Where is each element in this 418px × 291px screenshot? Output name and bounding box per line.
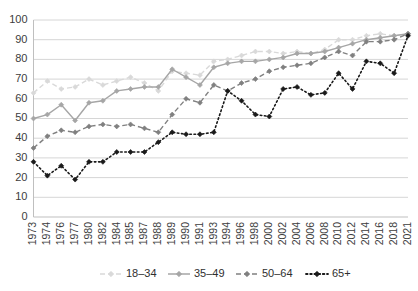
x-tick-label: 1993 <box>207 222 219 246</box>
data-point <box>392 37 397 42</box>
data-point <box>86 124 91 129</box>
data-point <box>184 96 189 101</box>
x-tick-label: 2006 <box>304 222 316 246</box>
chart-svg: 0102030405060708090100 19731974197619771… <box>0 0 418 291</box>
legend-marker-icon <box>108 271 114 277</box>
x-tick-label: 1982 <box>96 222 108 246</box>
legend-label: 18–34 <box>126 267 157 279</box>
y-tick-label: 20 <box>15 171 27 183</box>
data-point <box>142 126 147 131</box>
legend-item-65+[interactable]: 65+ <box>306 267 351 279</box>
data-point <box>114 124 119 129</box>
x-tick-label: 1994 <box>220 222 232 246</box>
x-tick-label: 2002 <box>276 222 288 246</box>
data-point <box>336 49 341 54</box>
data-point <box>128 149 133 154</box>
x-tick-label: 1988 <box>151 222 163 246</box>
y-tick-label: 0 <box>21 210 27 222</box>
x-tick-label: 2004 <box>290 222 302 246</box>
data-point <box>281 65 286 70</box>
x-tick-label: 1985 <box>123 222 135 246</box>
x-tick-label: 1996 <box>234 222 246 246</box>
x-tick-label: 1977 <box>68 222 80 246</box>
y-tick-label: 80 <box>15 52 27 64</box>
data-point <box>59 128 64 133</box>
y-tick-label: 60 <box>15 92 27 104</box>
data-point <box>197 132 202 137</box>
data-point <box>142 84 147 89</box>
data-point <box>86 77 91 82</box>
x-tick-label: 1991 <box>193 222 205 246</box>
legend-item-18-34[interactable]: 18–34 <box>100 267 157 279</box>
x-tick-label: 2010 <box>331 222 343 246</box>
x-tick-label: 2012 <box>345 222 357 246</box>
x-tick-label: 2021 <box>401 222 413 246</box>
x-tick-label: 1980 <box>82 222 94 246</box>
data-point <box>225 61 230 66</box>
data-point <box>100 83 105 88</box>
y-tick-label: 50 <box>15 111 27 123</box>
y-tick-label: 90 <box>15 33 27 45</box>
y-tick-label: 10 <box>15 190 27 202</box>
x-tick-label: 1989 <box>165 222 177 246</box>
x-tick-label: 2008 <box>318 222 330 246</box>
x-tick-label: 2016 <box>373 222 385 246</box>
data-point <box>128 86 133 91</box>
x-tick-label: 2000 <box>262 222 274 246</box>
x-axis-tick-labels: 1973197419761977198019821984198519871988… <box>26 222 413 246</box>
data-point <box>350 41 355 46</box>
data-point <box>31 159 36 164</box>
data-point <box>31 116 36 121</box>
data-point <box>253 77 258 82</box>
data-point <box>239 53 244 58</box>
series-35-49 <box>31 31 411 123</box>
data-point <box>100 122 105 127</box>
data-point <box>100 159 105 164</box>
y-axis-tick-labels: 0102030405060708090100 <box>9 13 27 222</box>
chart-legend: 18–3435–4950–6465+ <box>100 267 351 279</box>
x-tick-label: 1984 <box>110 222 122 246</box>
legend-marker-icon <box>314 271 320 277</box>
data-point <box>322 90 327 95</box>
data-point <box>225 88 230 93</box>
x-tick-label: 1998 <box>248 222 260 246</box>
data-point <box>59 86 64 91</box>
x-tick-label: 1974 <box>40 222 52 246</box>
y-tick-label: 100 <box>9 13 27 25</box>
data-point <box>73 130 78 135</box>
x-tick-label: 2018 <box>387 222 399 246</box>
data-point <box>267 49 272 54</box>
data-point <box>184 132 189 137</box>
legend-item-50-64[interactable]: 50–64 <box>236 267 293 279</box>
data-point <box>156 130 161 135</box>
legend-label: 50–64 <box>262 267 293 279</box>
x-tick-label: 1987 <box>137 222 149 246</box>
data-point <box>267 57 272 62</box>
legend-item-35-49[interactable]: 35–49 <box>168 267 225 279</box>
legend-marker-icon <box>176 271 182 277</box>
x-tick-label: 1990 <box>179 222 191 246</box>
series-50-64 <box>31 31 411 150</box>
x-tick-label: 1973 <box>26 222 38 246</box>
line-chart: 0102030405060708090100 19731974197619771… <box>0 0 418 291</box>
data-point <box>295 63 300 68</box>
data-point <box>128 122 133 127</box>
x-tick-label: 1976 <box>54 222 66 246</box>
gridlines <box>34 20 409 217</box>
data-series-layer <box>31 31 411 182</box>
x-tick-label: 2014 <box>359 222 371 246</box>
y-tick-label: 70 <box>15 72 27 84</box>
data-point <box>308 51 313 56</box>
data-point <box>308 61 313 66</box>
y-tick-label: 40 <box>15 131 27 143</box>
data-point <box>211 130 216 135</box>
legend-label: 65+ <box>332 267 351 279</box>
legend-marker-icon <box>244 271 250 277</box>
data-point <box>253 49 258 54</box>
y-tick-label: 30 <box>15 151 27 163</box>
legend-label: 35–49 <box>194 267 225 279</box>
